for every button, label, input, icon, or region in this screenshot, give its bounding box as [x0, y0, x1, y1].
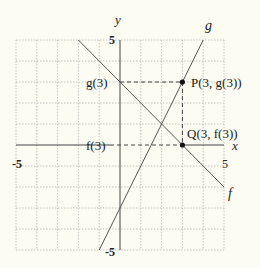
function-graph: y x 5 -5 -5 5 g f P(3, g(3)) Q(3, f(3)) …	[0, 0, 260, 268]
curve-g-label: g	[205, 18, 212, 33]
point-q-label: Q(3, f(3))	[187, 126, 238, 141]
y-min-label: -5	[105, 245, 115, 259]
y-axis-label: y	[113, 12, 121, 27]
point-p-label: P(3, g(3))	[191, 75, 242, 90]
g3-label: g(3)	[86, 75, 108, 90]
point-q	[180, 142, 185, 147]
point-p	[180, 79, 185, 84]
f3-label: f(3)	[86, 138, 106, 153]
curve-f-label: f	[228, 186, 234, 201]
x-min-label: -5	[12, 157, 22, 171]
x-max-label: 5	[222, 157, 228, 171]
curve-f	[78, 40, 224, 187]
y-max-label: 5	[109, 33, 115, 47]
